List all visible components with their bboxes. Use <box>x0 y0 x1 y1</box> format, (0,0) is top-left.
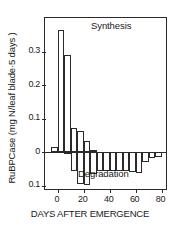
y-axis-tick-mark <box>42 52 46 53</box>
y-axis-tick-mark <box>42 152 46 153</box>
bars-layer <box>45 18 166 189</box>
x-axis-tick-mark <box>58 189 59 194</box>
x-axis-tick-mark <box>136 189 137 194</box>
y-axis-tick-label: 0.1 <box>16 180 40 189</box>
x-axis-tick-mark <box>110 189 111 194</box>
bar <box>142 152 148 161</box>
x-axis-tick-label: 0 <box>46 194 68 204</box>
x-axis-tick-labels: 020406080 <box>44 194 167 206</box>
x-axis-tick-mark <box>84 189 85 194</box>
chart-figure: RuBPCase (mg N/leaf blade·5 days ) 0.30.… <box>0 0 180 247</box>
y-axis-tick-label: 0 <box>16 147 40 156</box>
bar <box>84 141 90 153</box>
plot-area: Synthesis Degradation <box>44 17 167 190</box>
x-axis-tick-label: 20 <box>72 194 94 204</box>
x-axis-tick-label: 80 <box>150 194 172 204</box>
annotation-degradation: Degradation <box>78 168 129 179</box>
annotation-synthesis: Synthesis <box>91 20 131 31</box>
y-axis-tick-mark <box>42 85 46 86</box>
y-axis-tick-mark <box>42 186 46 187</box>
y-axis-tick-mark <box>42 119 46 120</box>
x-axis-tick-mark <box>162 189 163 194</box>
x-axis-tick-label: 60 <box>124 194 146 204</box>
bar <box>64 55 70 152</box>
x-axis-tick-label: 40 <box>98 194 120 204</box>
y-axis-tick-label: 0.3 <box>16 46 40 55</box>
y-axis-tick-label: 0.2 <box>16 80 40 89</box>
y-axis-tick-label: 0.1 <box>16 113 40 122</box>
zero-baseline <box>45 152 166 153</box>
x-axis-title: DAYS AFTER EMERGENCE <box>0 208 180 219</box>
